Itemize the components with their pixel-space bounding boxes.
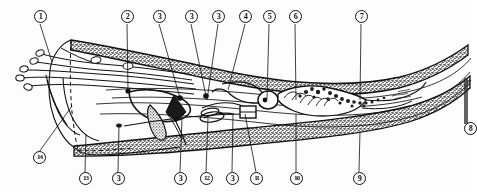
callout-6[interactable]: 6	[289, 10, 302, 23]
callout-3e[interactable]: 3	[174, 172, 187, 185]
callout-3b[interactable]: 3	[185, 10, 198, 23]
callout-1[interactable]: 1	[34, 10, 47, 23]
callout-edge-partial[interactable]: 8	[464, 122, 477, 135]
callout-9[interactable]: 9	[353, 172, 366, 185]
edge-artifact	[464, 78, 468, 124]
callout-5[interactable]: 5	[263, 10, 276, 23]
callout-14[interactable]: 14	[33, 151, 46, 164]
callout-4[interactable]: 4	[239, 10, 252, 23]
spherical-organ	[258, 91, 278, 109]
callout-11[interactable]: 11	[250, 172, 263, 185]
callout-3a[interactable]: 3	[153, 10, 166, 23]
callout-3d[interactable]: 3	[112, 172, 125, 185]
callout-13[interactable]: 13	[79, 172, 92, 185]
callout-2[interactable]: 2	[121, 10, 134, 23]
callout-3c[interactable]: 3	[212, 10, 225, 23]
callout-12[interactable]: 12	[200, 172, 213, 185]
callout-10[interactable]: 10	[290, 172, 303, 185]
callout-3f[interactable]: 3	[226, 172, 239, 185]
callout-7[interactable]: 7	[355, 10, 368, 23]
valve-sclerite	[240, 106, 256, 118]
